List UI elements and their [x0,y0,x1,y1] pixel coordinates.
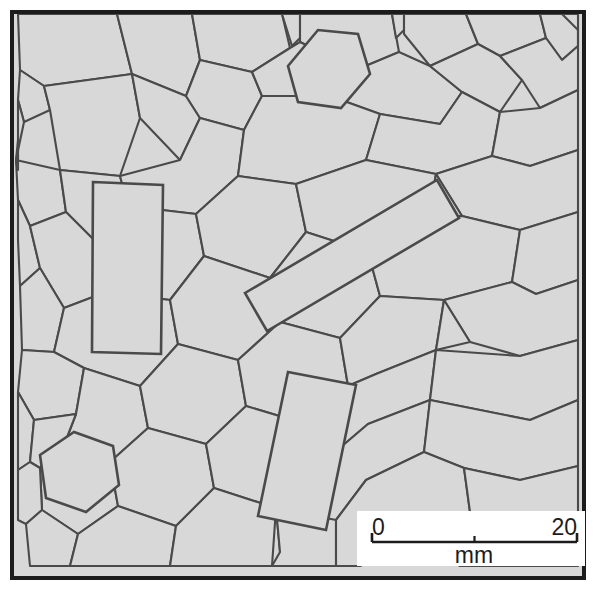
scale-max-label: 20 [551,514,577,540]
large-vertical-phenocryst [92,182,163,354]
microstructure-diagram: 0 20 mm [0,0,593,594]
scale-min-label: 0 [372,514,385,540]
grain-polygon [44,74,140,176]
scale-unit-label: mm [455,542,493,568]
figure-root: 0 20 mm [0,0,593,594]
scale-bar: 0 20 mm [357,511,585,568]
grain-polygon [18,14,132,86]
